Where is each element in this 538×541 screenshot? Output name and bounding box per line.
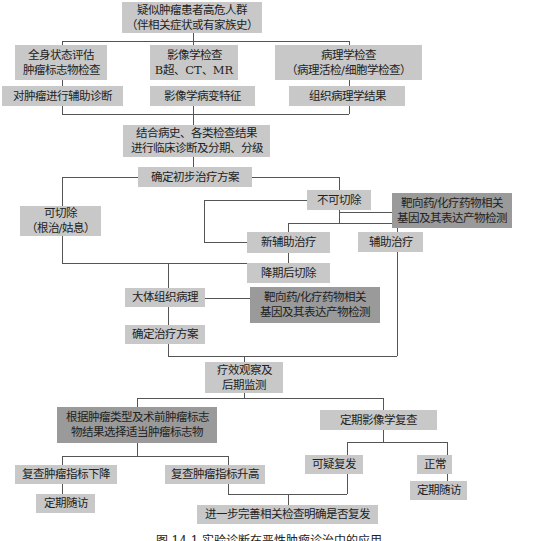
node-gene-test-2-line2: 基因及其表达产物检测 [260, 305, 370, 320]
node-exam-pathology: 病理学检查 （病理活检/细胞学检查） [275, 45, 422, 80]
node-gene-test-1-line2: 基因及其表达产物检测 [397, 211, 507, 226]
node-resectable: 可切除 （根治/姑息） [20, 206, 101, 236]
connector [62, 177, 138, 178]
connector [205, 298, 250, 299]
connector [204, 200, 307, 201]
node-monitoring-line1: 疗效观察及 [217, 363, 272, 378]
connector [168, 307, 169, 325]
figure-caption: 图 14-1 实验诊断在恶性肿瘤诊治中的应用 [0, 531, 538, 541]
connector [347, 442, 447, 443]
node-neoadjuvant: 新辅助治疗 [247, 232, 330, 253]
node-followup-right: 定期随访 [410, 481, 467, 500]
connector [447, 442, 448, 455]
connector [288, 253, 289, 263]
connector [62, 114, 349, 115]
connector [193, 157, 194, 167]
node-start-line2: （伴相关症状或有家族史） [126, 18, 258, 33]
connector [62, 236, 63, 263]
node-gross-pathology: 大体组织病理 [125, 288, 205, 307]
node-resectable-line2: （根治/姑息） [26, 221, 96, 236]
connector [62, 106, 63, 114]
node-exam-imaging-line2: B超、CT、MR [155, 63, 233, 78]
node-final-plan: 确定治疗方案 [125, 325, 205, 344]
node-gene-test-1: 靶向药/化疗药物相关 基因及其表达产物检测 [392, 193, 512, 228]
node-exam-general: 全身状态评估 肿瘤标志物检查 [15, 45, 107, 80]
node-followup-left: 定期随访 [36, 494, 95, 513]
node-marker-down: 复查肿瘤指标下降 [15, 465, 117, 484]
connector [228, 484, 229, 494]
node-exam-general-line1: 全身状态评估 [28, 48, 94, 63]
node-gene-test-1-line1: 靶向药/化疗药物相关 [401, 196, 504, 211]
connector [397, 252, 398, 356]
connector [168, 356, 397, 357]
connector [383, 430, 384, 442]
node-marker-select-line2: 物结果选择适当肿瘤标志物 [71, 425, 203, 440]
node-diagnosis-line2: 进行临床诊断及分期、分级 [131, 141, 263, 156]
node-exam-imaging-line1: 影像学检查 [167, 48, 222, 63]
connector [288, 223, 397, 224]
node-adjuvant: 辅助治疗 [358, 232, 423, 252]
connector [193, 33, 194, 41]
connector [288, 223, 289, 232]
node-monitoring-line2: 后期监测 [222, 378, 266, 393]
connector [349, 106, 350, 114]
connector [137, 398, 383, 399]
node-start-line1: 疑似肿瘤患者高危人群 [137, 3, 247, 18]
connector [137, 443, 138, 456]
node-marker-select-line1: 根据肿瘤类型及术前肿瘤标志 [66, 410, 209, 425]
node-gene-test-2: 靶向药/化疗药物相关 基因及其表达产物检测 [250, 287, 380, 323]
connector [137, 398, 138, 407]
connector [62, 41, 349, 42]
node-monitoring: 疗效观察及 后期监测 [205, 362, 283, 393]
node-gene-test-2-line1: 靶向药/化疗药物相关 [264, 290, 367, 305]
node-marker-select: 根据肿瘤类型及术前肿瘤标志 物结果选择适当肿瘤标志物 [57, 407, 217, 443]
connector [62, 263, 247, 264]
connector [228, 456, 229, 465]
node-normal: 正常 [417, 455, 452, 474]
node-result-imaging: 影像学病变特征 [150, 86, 255, 106]
node-imaging-followup: 定期影像学复查 [320, 410, 437, 430]
connector [168, 344, 169, 356]
node-initial-plan: 确定初步治疗方案 [138, 167, 252, 187]
node-resectable-line1: 可切除 [44, 206, 77, 221]
connector [204, 200, 205, 242]
node-diagnosis: 结合病史、各类检查结果 进行临床诊断及分期、分级 [123, 125, 270, 157]
connector [288, 494, 289, 505]
node-unresectable: 不可切除 [307, 190, 371, 210]
node-exam-general-line2: 肿瘤标志物检查 [23, 63, 100, 78]
connector [252, 177, 339, 178]
node-result-general: 对肿瘤进行辅助诊断 [2, 86, 123, 106]
node-marker-up: 复查肿瘤指标升高 [165, 465, 265, 484]
node-further-exam: 进一步完善相关检查明确是否复发 [197, 505, 378, 524]
connector [62, 484, 63, 494]
connector [62, 177, 63, 206]
node-downstage-resection: 降期后切除 [247, 263, 330, 283]
connector [347, 474, 348, 494]
connector [193, 106, 194, 125]
connector [168, 263, 169, 288]
node-start: 疑似肿瘤患者高危人群 （伴相关症状或有家族史） [122, 2, 262, 33]
connector [447, 474, 448, 481]
connector [204, 242, 247, 243]
connector [347, 442, 348, 455]
node-exam-imaging: 影像学检查 B超、CT、MR [150, 45, 238, 80]
connector [339, 177, 340, 190]
flowchart-canvas: 疑似肿瘤患者高危人群 （伴相关症状或有家族史） 全身状态评估 肿瘤标志物检查 影… [0, 0, 538, 541]
node-exam-pathology-line2: （病理活检/细胞学检查） [286, 63, 411, 78]
node-suspected-recurrence: 可疑复发 [305, 455, 363, 474]
connector [339, 212, 392, 213]
node-result-pathology: 组织病理学结果 [289, 86, 405, 106]
connector [383, 398, 384, 410]
connector [62, 456, 228, 457]
node-exam-pathology-line1: 病理学检查 [321, 48, 376, 63]
connector [62, 456, 63, 465]
node-diagnosis-line1: 结合病史、各类检查结果 [136, 126, 257, 141]
